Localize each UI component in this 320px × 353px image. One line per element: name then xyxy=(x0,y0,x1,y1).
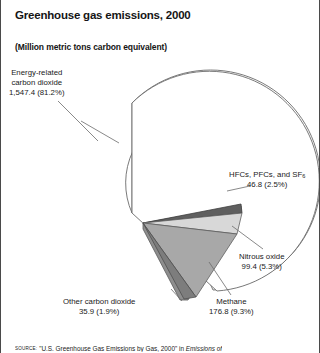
label-hfc-subscript: 6 xyxy=(302,173,305,179)
source-emphasis: Emissions of xyxy=(186,345,222,352)
label-hfc-text: HFCs, PFCs, and SF xyxy=(229,170,302,179)
label-methane-line1: Methane xyxy=(209,297,254,307)
label-energy-related-carbon-dioxide: Energy-related carbon dioxide 1,547.4 (8… xyxy=(9,68,64,98)
label-other-carbon-dioxide: Other carbon dioxide 35.9 (1.9%) xyxy=(63,297,135,317)
label-energy-line1: Energy-related xyxy=(9,68,64,78)
label-other-value: 35.9 (1.9%) xyxy=(63,307,135,317)
label-hfcs-pfcs-sf6: HFCs, PFCs, and SF6 46.8 (2.5%) xyxy=(229,170,305,190)
label-nitrous-line1: Nitrous oxide xyxy=(239,252,285,262)
label-nitrous-oxide: Nitrous oxide 99.4 (5.3%) xyxy=(239,252,285,272)
figure-panel: Greenhouse gas emissions, 2000 (Million … xyxy=(0,0,320,353)
label-hfc-line1: HFCs, PFCs, and SF6 xyxy=(229,170,305,180)
label-nitrous-value: 99.4 (5.3%) xyxy=(239,262,285,272)
leader-line-energy xyxy=(58,101,98,141)
source-label: SOURCE: xyxy=(15,346,37,351)
leader-line-energy-2 xyxy=(81,121,119,143)
label-energy-line2: carbon dioxide xyxy=(9,78,64,88)
label-hfc-value: 46.8 (2.5%) xyxy=(229,180,305,190)
label-methane: Methane 176.8 (9.3%) xyxy=(209,297,254,317)
source-text: "U.S. Greenhouse Gas Emissions by Gas, 2… xyxy=(39,345,184,352)
label-methane-value: 176.8 (9.3%) xyxy=(209,307,254,317)
label-other-line1: Other carbon dioxide xyxy=(63,297,135,307)
label-energy-value: 1,547.4 (81.2%) xyxy=(9,88,64,98)
source-note: SOURCE: "U.S. Greenhouse Gas Emissions b… xyxy=(15,345,222,352)
